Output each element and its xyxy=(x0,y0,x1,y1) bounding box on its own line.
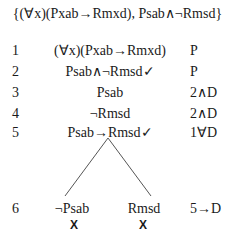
left-branch-formula: ¬Psab xyxy=(52,201,92,217)
justification-line-6: 5→D xyxy=(190,201,221,217)
left-branch-closed-mark: X xyxy=(70,217,78,233)
right-branch-formula: Rmsd xyxy=(124,201,164,217)
line-number-6: 6 xyxy=(12,201,24,217)
right-branch-closed-mark: X xyxy=(139,217,147,233)
left-branch-line xyxy=(65,138,108,196)
right-branch-line xyxy=(108,138,151,196)
